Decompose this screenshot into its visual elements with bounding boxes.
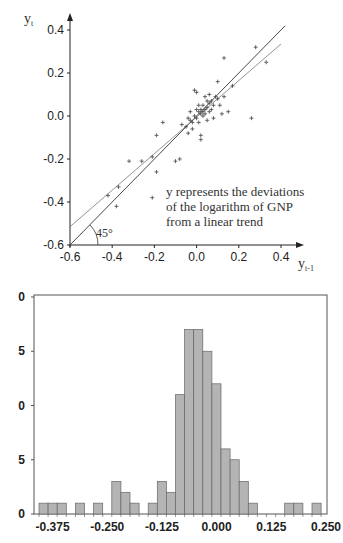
data-point bbox=[222, 56, 226, 60]
data-point bbox=[203, 95, 207, 99]
histogram-bar bbox=[294, 503, 303, 514]
histogram-bar bbox=[212, 384, 221, 514]
data-point bbox=[220, 112, 224, 116]
figure: 0.40.20.0-0.2-0.4-0.6 -0.6-0.4-0.20.00.2… bbox=[0, 0, 343, 543]
data-point bbox=[207, 110, 211, 114]
data-point bbox=[199, 138, 203, 142]
histogram-x-tick-label: 0.000 bbox=[202, 520, 232, 534]
histogram-bar bbox=[130, 503, 139, 514]
x-tick-label: -0.6 bbox=[60, 250, 81, 264]
data-point bbox=[222, 95, 226, 99]
data-point bbox=[155, 170, 159, 174]
y-axis-arrow-icon bbox=[67, 13, 73, 21]
data-point bbox=[114, 204, 118, 208]
histogram-bar bbox=[166, 492, 175, 514]
x-tick-labels: -0.6-0.4-0.20.00.20.4 bbox=[60, 245, 290, 264]
histogram-bar bbox=[221, 449, 230, 514]
x-tick-label: 0.4 bbox=[273, 250, 290, 264]
data-point bbox=[211, 116, 215, 120]
histogram-bar bbox=[39, 503, 48, 514]
data-point bbox=[205, 118, 209, 122]
data-point bbox=[216, 80, 220, 84]
data-point bbox=[207, 93, 211, 97]
data-point bbox=[197, 103, 201, 107]
annotation-line-1: y represents the deviations bbox=[166, 184, 304, 199]
data-point bbox=[218, 103, 222, 107]
histogram-x-tick-label: -0.375 bbox=[36, 520, 70, 534]
x-tick-label: -0.2 bbox=[144, 250, 165, 264]
x-tick-label: -0.4 bbox=[102, 250, 123, 264]
histogram-bar bbox=[239, 481, 248, 514]
histogram-bar bbox=[148, 503, 157, 514]
x-axis-label: yt-1 bbox=[298, 256, 314, 273]
data-point bbox=[150, 196, 154, 200]
histogram-x-tick-label: 0.250 bbox=[311, 520, 341, 534]
data-point bbox=[106, 194, 110, 198]
y-tick-label: 0.0 bbox=[47, 109, 64, 123]
y-tick-label: 0.2 bbox=[47, 66, 64, 80]
scatter-plot: 0.40.20.0-0.2-0.4-0.6 -0.6-0.4-0.20.00.2… bbox=[24, 11, 314, 273]
data-point bbox=[127, 159, 131, 163]
data-point bbox=[203, 112, 207, 116]
histogram-x-tick-label: -0.250 bbox=[90, 520, 124, 534]
annotation-line-2: of the logarithm of GNP bbox=[166, 199, 293, 214]
data-point bbox=[195, 108, 199, 112]
data-point bbox=[195, 116, 199, 120]
data-point bbox=[178, 157, 182, 161]
histogram-y-tick-labels: 05050 bbox=[18, 290, 34, 521]
data-point bbox=[155, 133, 159, 137]
x-tick-label: 0.2 bbox=[230, 250, 247, 264]
histogram-bar bbox=[176, 395, 185, 514]
data-point bbox=[186, 116, 190, 120]
data-point bbox=[201, 103, 205, 107]
x-tick-label: 0.0 bbox=[188, 250, 205, 264]
annotation-line-3: from a linear trend bbox=[166, 214, 264, 229]
y-axis-label: yt bbox=[24, 11, 34, 28]
data-point bbox=[197, 110, 201, 114]
histogram-bar bbox=[112, 481, 121, 514]
histogram-bar bbox=[57, 503, 66, 514]
histogram-y-tick-label: 5 bbox=[18, 453, 25, 467]
histogram-bar bbox=[312, 503, 321, 514]
x-axis-arrow-icon bbox=[296, 242, 304, 248]
histogram-bar bbox=[230, 460, 239, 514]
histogram-y-tick-label: 5 bbox=[18, 344, 25, 358]
data-point bbox=[180, 123, 184, 127]
data-point bbox=[226, 110, 230, 114]
histogram-x-tick-label: -0.125 bbox=[145, 520, 179, 534]
data-point bbox=[161, 120, 165, 124]
histogram-bar bbox=[121, 492, 130, 514]
histogram-y-tick-label: 0 bbox=[18, 290, 25, 304]
histogram-bar bbox=[75, 503, 84, 514]
y-tick-label: -0.2 bbox=[43, 152, 64, 166]
histogram-y-tick-label: 0 bbox=[18, 399, 25, 413]
histogram-x-tick-label: 0.125 bbox=[256, 520, 286, 534]
y-tick-label: -0.4 bbox=[43, 195, 64, 209]
histogram-y-tick-label: 0 bbox=[18, 507, 25, 521]
data-point bbox=[150, 155, 154, 159]
data-point bbox=[190, 127, 194, 131]
data-point bbox=[140, 159, 144, 163]
histogram-bars bbox=[39, 330, 321, 514]
histogram: 05050 -0.375-0.250-0.1250.0000.1250.250 bbox=[18, 290, 341, 534]
data-point bbox=[199, 133, 203, 137]
data-point bbox=[201, 114, 205, 118]
data-point bbox=[197, 120, 201, 124]
data-point bbox=[195, 90, 199, 94]
data-point bbox=[188, 110, 192, 114]
data-point bbox=[199, 108, 203, 112]
histogram-bar bbox=[285, 503, 294, 514]
data-point bbox=[249, 116, 253, 120]
data-point bbox=[174, 159, 178, 163]
histogram-bar bbox=[48, 503, 57, 514]
data-point bbox=[190, 120, 194, 124]
histogram-bar bbox=[157, 481, 166, 514]
histogram-bar bbox=[248, 503, 257, 514]
histogram-x-tick-labels: -0.375-0.250-0.1250.0000.1250.250 bbox=[36, 514, 342, 534]
histogram-bar bbox=[194, 330, 203, 514]
data-point bbox=[254, 45, 258, 49]
data-point bbox=[186, 131, 190, 135]
data-point bbox=[264, 60, 268, 64]
y-tick-labels: 0.40.20.0-0.2-0.4-0.6 bbox=[43, 23, 70, 252]
angle-label: 45° bbox=[96, 226, 113, 240]
